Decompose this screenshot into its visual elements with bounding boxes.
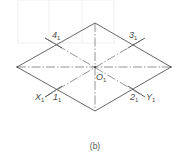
center-point-o1	[94, 66, 96, 68]
figure-caption: (b)	[90, 141, 101, 151]
label-point-3: 31	[129, 30, 138, 41]
label-point-2: 21	[129, 92, 139, 103]
right-vertex-dot	[170, 66, 172, 68]
isometric-ellipse-construction-diagram: 41 31 O1 11 21 X1 Y1 (b)	[0, 0, 183, 159]
label-axis-x: X1	[34, 92, 45, 103]
label-axis-y: Y1	[146, 92, 156, 103]
ghost-background-grid	[18, 0, 114, 43]
label-point-4: 41	[52, 30, 61, 41]
label-point-1: 11	[53, 92, 62, 103]
left-vertex-dot	[16, 66, 18, 68]
